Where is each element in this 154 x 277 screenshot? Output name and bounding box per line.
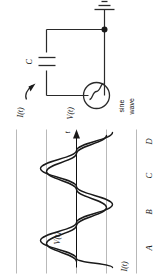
current-arrow-icon — [25, 83, 35, 99]
source-name-line2: wave — [127, 98, 134, 115]
circuit-svg: C — [0, 0, 154, 125]
capacitor-icon — [38, 57, 55, 65]
sine-glyph — [89, 83, 103, 99]
region-label-d: D — [143, 137, 153, 145]
current-label: I(t) — [15, 106, 24, 118]
voltage-curve-label: V(t) — [52, 231, 61, 244]
waveform-plot: t V(t) I(t) A B C D — [0, 127, 154, 277]
source-voltage-label: V(t) — [65, 106, 74, 119]
region-label-b: B — [143, 209, 153, 214]
region-label-a: A — [143, 244, 153, 251]
plot-svg: t V(t) I(t) A B C D — [0, 127, 154, 277]
circuit-diagram: C — [0, 0, 154, 125]
current-curve-label: I(t) — [119, 260, 128, 272]
rotated-figure-container: t V(t) I(t) A B C D — [0, 0, 154, 277]
junction-dot — [101, 26, 107, 32]
region-label-c: C — [143, 172, 153, 178]
source-name-line1: sine — [117, 99, 124, 112]
current-arrow-head — [28, 83, 35, 91]
figure-page: t V(t) I(t) A B C D — [0, 0, 154, 277]
capacitor-label: C — [24, 58, 33, 64]
axis-label-t: t — [62, 130, 71, 133]
ground-icon — [94, 1, 114, 9]
